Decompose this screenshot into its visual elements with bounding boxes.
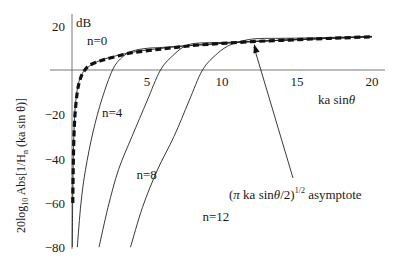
y-tick-20: 20 [52,19,65,34]
bessel-response-chart: 5101520 20−20−40−60−80 dB ka sinθ 20log1… [0,0,395,267]
asymptote-label: (π ka sinθ/2)1/2 asymptote [229,186,362,202]
curve-n-12 [131,36,373,247]
x-tick-labels: 5101520 [144,74,379,89]
x-tick-20: 20 [366,74,379,89]
y-axis-label: 20log10 Abs[1/Hn (ka sin θ)] [14,98,30,233]
label-n4: n=4 [102,105,123,120]
x-tick-10: 10 [216,74,229,89]
annotations: n=0n=4n=8n=12 [87,33,229,224]
y-unit-label: dB [76,15,92,30]
x-tick-5: 5 [144,74,151,89]
y-tick--60: −60 [45,196,65,211]
x-tick-15: 15 [291,74,304,89]
y-tick--20: −20 [45,107,65,122]
y-tick--40: −40 [45,152,65,167]
x-axis-label: ka sinθ [318,92,356,107]
y-tick-labels: 20−20−40−60−80 [45,19,65,256]
y-tick--80: −80 [45,240,65,255]
asymptote-arrow [253,44,293,178]
label-n8: n=8 [137,167,157,182]
label-n0: n=0 [87,33,107,48]
label-n12: n=12 [203,209,230,224]
